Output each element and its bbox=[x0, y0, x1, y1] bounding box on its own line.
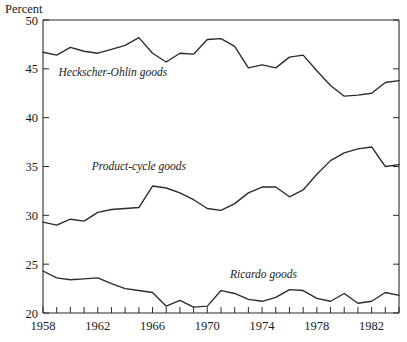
series-label: Product-cycle goods bbox=[91, 160, 187, 173]
series-label: Heckscher-Ohlin goods bbox=[57, 66, 167, 79]
chart-background bbox=[0, 0, 407, 342]
y-tick-label: 25 bbox=[26, 258, 39, 272]
y-tick-label: 50 bbox=[26, 14, 39, 28]
y-tick-label: 40 bbox=[26, 111, 39, 125]
y-tick-label: 45 bbox=[26, 62, 39, 76]
x-tick-label: 1982 bbox=[359, 319, 384, 333]
x-tick-label: 1974 bbox=[250, 319, 276, 333]
series-label: Ricardo goods bbox=[229, 268, 297, 281]
line-chart: Percent 50454035302520 19581962196619701… bbox=[0, 0, 407, 342]
y-tick-label: 30 bbox=[26, 209, 39, 223]
x-tick-label: 1978 bbox=[304, 319, 329, 333]
x-tick-label: 1966 bbox=[140, 319, 165, 333]
x-tick-label: 1962 bbox=[85, 319, 110, 333]
y-tick-label: 35 bbox=[26, 160, 39, 174]
chart-container: Percent 50454035302520 19581962196619701… bbox=[0, 0, 407, 342]
x-tick-label: 1958 bbox=[31, 319, 56, 333]
x-tick-label: 1970 bbox=[195, 319, 220, 333]
